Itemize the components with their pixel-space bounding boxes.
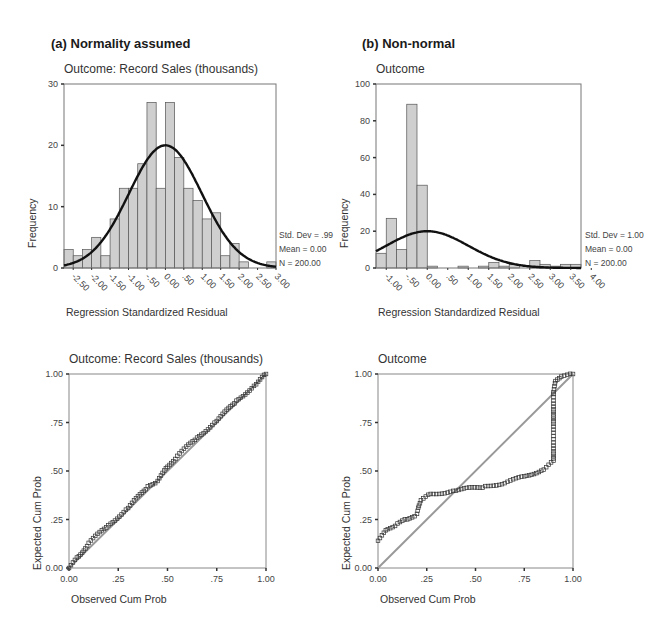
- y-axis-label: Frequency: [338, 198, 350, 248]
- data-point: [403, 518, 407, 522]
- x-tick-label: 3.50: [567, 271, 586, 290]
- y-tick-label: 100: [355, 79, 370, 89]
- data-point: [552, 417, 556, 421]
- y-tick-label: 80: [360, 116, 370, 126]
- x-tick-label: -2.50: [70, 271, 92, 293]
- y-tick-label: .25: [359, 515, 372, 525]
- y-tick-label: 30: [48, 79, 58, 89]
- pp-plot-pp_a: [66, 372, 268, 571]
- data-point: [391, 525, 395, 529]
- data-point: [552, 454, 556, 458]
- y-tick-label: .50: [50, 466, 63, 476]
- y-tick-label: 0.00: [354, 563, 372, 573]
- histogram-hist_b: [373, 84, 591, 270]
- data-point: [552, 449, 556, 453]
- histogram-bar: [239, 262, 248, 268]
- x-tick-label: 0.00: [162, 271, 181, 290]
- x-tick-label: 1.50: [217, 271, 236, 290]
- x-tick-label: -1.00: [125, 271, 147, 293]
- data-point: [552, 419, 556, 423]
- histogram-bar: [175, 158, 184, 268]
- data-point: [552, 457, 556, 461]
- data-point: [388, 526, 392, 530]
- data-point: [408, 517, 412, 521]
- x-tick-label: .50: [161, 574, 174, 584]
- x-tick-label: 0.00: [424, 271, 443, 290]
- y-tick-label: .75: [50, 418, 63, 428]
- x-tick-label: .50: [444, 271, 460, 287]
- y-tick-label: 0: [53, 263, 58, 273]
- x-tick-label: -.50: [403, 271, 421, 289]
- histogram-bar: [138, 164, 147, 268]
- y-tick-label: 10: [48, 202, 58, 212]
- x-axis-label: Regression Standardized Residual: [66, 306, 228, 318]
- x-tick-label: -2.00: [88, 271, 110, 293]
- data-point: [544, 465, 548, 469]
- histogram-hist_a: [61, 84, 276, 270]
- data-point: [547, 463, 551, 467]
- x-axis-label: Observed Cum Prob: [71, 593, 167, 605]
- y-tick-label: 1.00: [45, 369, 63, 379]
- x-tick-label: 2.00: [506, 271, 525, 290]
- y-axis-label: Expected Cum Prob: [340, 476, 352, 570]
- x-tick-label: 4.00: [588, 271, 607, 290]
- x-tick-label: .75: [518, 574, 531, 584]
- histogram-bar: [202, 219, 211, 268]
- x-tick-label: 3.00: [547, 271, 566, 290]
- data-point: [537, 470, 541, 474]
- y-tick-label: .50: [359, 466, 372, 476]
- histogram-bar: [221, 256, 230, 268]
- x-tick-label: 1.00: [465, 271, 484, 290]
- data-point: [552, 452, 556, 456]
- histogram-bar: [147, 102, 156, 268]
- data-point: [478, 486, 482, 490]
- x-axis-label: Observed Cum Prob: [380, 593, 476, 605]
- data-point: [542, 468, 546, 472]
- data-point: [89, 539, 93, 543]
- data-point: [180, 449, 184, 453]
- x-tick-label: 2.50: [526, 271, 545, 290]
- histogram-bar: [165, 102, 174, 268]
- x-tick-label: -1.00: [383, 271, 405, 293]
- histogram-bar: [193, 201, 202, 268]
- x-tick-label: .50: [469, 574, 482, 584]
- data-point: [91, 536, 95, 540]
- data-point: [552, 415, 556, 419]
- data-point: [410, 516, 414, 520]
- y-tick-label: 1.00: [354, 369, 372, 379]
- data-point: [393, 524, 397, 528]
- y-tick-label: 60: [360, 153, 370, 163]
- reference-line: [378, 374, 573, 568]
- y-tick-label: 0: [365, 263, 370, 273]
- histogram-bar: [489, 262, 499, 268]
- data-point: [470, 486, 474, 490]
- x-tick-label: 0.00: [60, 574, 78, 584]
- data-point: [405, 518, 409, 522]
- histogram-bar: [92, 237, 101, 268]
- x-tick-label: -.50: [144, 271, 162, 289]
- data-point: [475, 486, 479, 490]
- data-point: [401, 519, 405, 523]
- histogram-bar: [397, 250, 407, 268]
- x-tick-label: 2.00: [236, 271, 255, 290]
- y-tick-label: 40: [360, 189, 370, 199]
- y-tick-label: 20: [48, 140, 58, 150]
- x-tick-label: -1.50: [107, 271, 129, 293]
- data-point: [535, 471, 539, 475]
- data-point: [540, 469, 544, 473]
- data-point: [473, 486, 477, 490]
- histogram-bar: [407, 104, 417, 268]
- data-point: [178, 452, 182, 456]
- histogram-bar: [376, 253, 386, 268]
- x-tick-label: 1.00: [199, 271, 218, 290]
- data-point: [413, 514, 417, 518]
- x-tick-label: .75: [210, 574, 223, 584]
- x-tick-label: 3.00: [273, 271, 292, 290]
- x-tick-label: .50: [180, 271, 196, 287]
- x-tick-label: 1.00: [564, 574, 582, 584]
- y-axis-label: Frequency: [26, 198, 38, 248]
- x-tick-label: .25: [112, 574, 125, 584]
- y-tick-label: .75: [359, 418, 372, 428]
- x-tick-label: 1.00: [257, 574, 275, 584]
- y-axis-label: Expected Cum Prob: [31, 476, 43, 570]
